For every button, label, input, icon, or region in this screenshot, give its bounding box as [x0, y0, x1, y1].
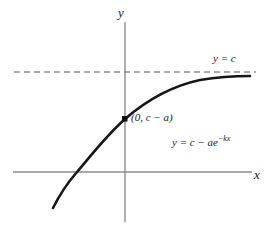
- asymptote-equation-label: y = c: [213, 53, 236, 64]
- curve-equation-base: y = c − ae: [172, 136, 218, 148]
- y-intercept-point-marker: [122, 116, 128, 122]
- curve-equation-exponent: −kx: [218, 134, 230, 143]
- y-intercept-point-label: (0, c − a): [131, 112, 173, 123]
- exponential-graph-figure: y x y = c (0, c − a) y = c − ae−kx: [0, 0, 279, 233]
- y-axis-label: y: [118, 6, 124, 19]
- x-axis-label: x: [254, 168, 260, 181]
- curve-equation-label: y = c − ae−kx: [172, 137, 230, 148]
